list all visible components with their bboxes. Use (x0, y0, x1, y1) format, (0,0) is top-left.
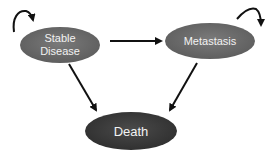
state-diagram: Stable Disease Metastasis Death (0, 0, 269, 154)
node-label: Metastasis (184, 35, 237, 47)
node-stable-disease: Stable Disease (20, 27, 100, 63)
node-death: Death (85, 112, 177, 150)
self-loop-arrow-stable (14, 11, 33, 32)
node-label-line: Stable (44, 32, 75, 44)
self-loop-arrow-metastasis (237, 9, 261, 25)
arrow-metastasis-to-death (170, 63, 197, 110)
arrow-stable-to-death (69, 64, 96, 110)
node-label: Death (114, 124, 149, 139)
node-label-line: Disease (40, 45, 80, 57)
node-metastasis: Metastasis (165, 23, 255, 59)
